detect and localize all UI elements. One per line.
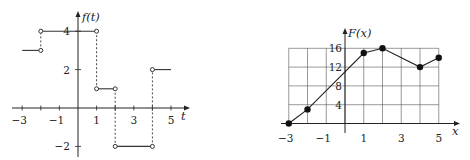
y-axis-label: f(t) [81,10,100,24]
y-tick-label: −2 [55,140,70,152]
y-axis-arrow-icon [76,11,81,17]
x-tick-label: 5 [435,132,442,144]
x-tick-label: 1 [360,132,367,144]
open-endpoint-marker [95,29,99,33]
open-endpoint-marker [113,87,117,91]
open-endpoint-marker [39,29,43,33]
x-tick-label: −3 [278,132,293,144]
x-tick-label: −1 [316,132,331,144]
figure: −3−113542−2f(t)t −3−1135481216F(x)x [0,0,470,160]
y-axis-label: F(x) [347,26,371,40]
data-point [286,120,292,126]
data-point [304,106,310,112]
right-chart-F-of-x: −3−1135481216F(x)x [278,26,460,144]
y-tick-label: 2 [63,64,70,76]
data-point [379,45,385,51]
y-tick-label: 4 [335,99,342,111]
x-tick-label: −3 [11,114,26,126]
open-endpoint-marker [150,68,154,72]
data-point [361,50,367,56]
open-endpoint-marker [39,48,43,52]
open-endpoint-marker [95,87,99,91]
y-axis-arrow-icon [343,28,348,34]
left-chart-f-of-t: −3−113542−2f(t)t [11,10,190,157]
open-endpoint-marker [150,144,154,148]
x-axis-label: x [452,124,459,138]
x-tick-label: 1 [93,114,100,126]
y-tick-label: 16 [329,42,343,54]
data-point [417,64,423,70]
open-endpoint-marker [113,144,117,148]
y-tick-label: 12 [329,61,342,73]
y-tick-label: 8 [335,80,342,92]
x-tick-label: −1 [49,114,64,126]
x-axis-label: t [181,109,186,123]
data-point [436,55,442,61]
x-tick-label: 3 [398,132,405,144]
x-tick-label: 5 [168,114,175,126]
x-tick-label: 3 [130,114,137,126]
